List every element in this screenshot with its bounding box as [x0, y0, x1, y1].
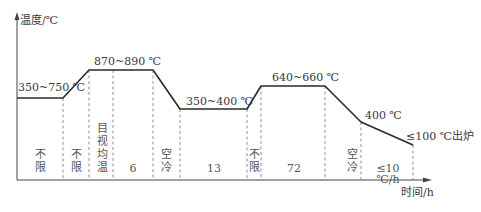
segment-label-4: 6	[128, 163, 138, 174]
segment-label-2: 不限	[69, 148, 83, 174]
cool-point-temp-label: 400 ℃	[365, 110, 402, 121]
normalize-temp-label: 870~890 ℃	[94, 56, 161, 67]
segment-label-1: 不限	[33, 148, 47, 174]
segment-dividers	[63, 70, 413, 180]
segment-label-6: 13	[206, 163, 222, 174]
segment-label-10: ≤10 ℃/h	[364, 163, 412, 185]
segment-label-9: 空冷	[345, 148, 359, 174]
discharge-temp-label: ≤100 ℃出炉	[406, 131, 474, 142]
segment-label-5: 空冷	[159, 148, 173, 174]
x-axis-label: 时间/h	[401, 187, 434, 198]
temper-temp-label: 640~660 ℃	[272, 72, 339, 83]
segment-label-3: 目视均温	[95, 122, 109, 174]
segment-label-7: 不限	[247, 148, 261, 174]
y-axis-arrow-icon	[15, 12, 20, 20]
y-axis-label: 温度/℃	[20, 15, 58, 26]
preheat-temp-label: 350~750 ℃	[18, 82, 85, 93]
segment-label-8: 72	[286, 163, 302, 174]
x-axis-arrow-icon	[423, 178, 432, 183]
isothermal-temp-label: 350~400 ℃	[186, 96, 253, 107]
